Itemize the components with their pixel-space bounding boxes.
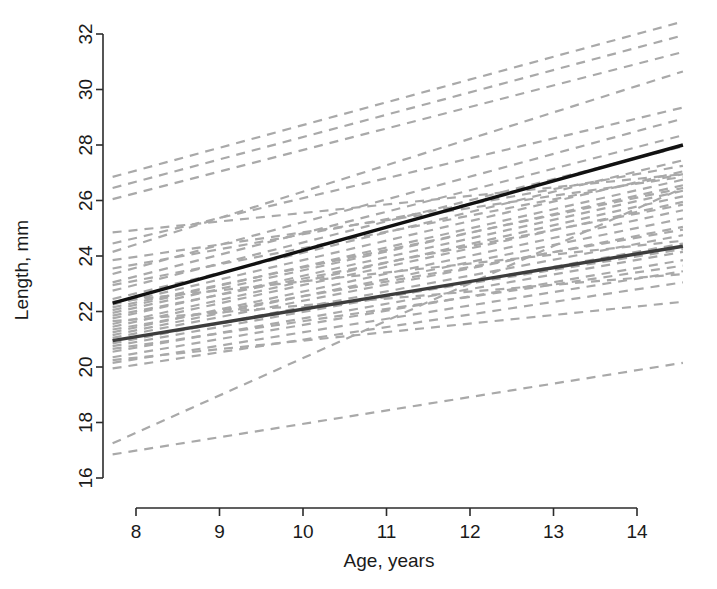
x-axis-tick-label: 12 — [459, 521, 480, 542]
y-axis-title: Length, mm — [11, 220, 32, 320]
chart-figure: 161820222426283032 891011121314 Age, yea… — [0, 0, 717, 589]
y-axis-tick-label: 28 — [75, 134, 96, 155]
x-axis-tick-label: 11 — [377, 521, 397, 542]
y-axis-tick-label: 26 — [75, 190, 96, 211]
y-axis-tick-label: 30 — [75, 79, 96, 100]
y-axis-tick-label: 24 — [75, 245, 96, 267]
x-axis-tick-label: 9 — [214, 521, 225, 542]
y-axis-tick-label: 18 — [75, 412, 96, 433]
y-axis-tick-label: 22 — [75, 301, 96, 322]
growth-trajectory-chart: 161820222426283032 891011121314 Age, yea… — [0, 0, 717, 589]
y-axis-tick-label: 16 — [75, 467, 96, 488]
x-axis-tick-label: 13 — [543, 521, 564, 542]
x-axis-tick-label: 14 — [626, 521, 648, 542]
x-axis-tick-label: 8 — [131, 521, 142, 542]
x-axis-title: Age, years — [344, 550, 435, 571]
x-axis-tick-label: 10 — [292, 521, 313, 542]
y-axis-tick-label: 20 — [75, 356, 96, 377]
y-axis-tick-label: 32 — [75, 23, 96, 44]
